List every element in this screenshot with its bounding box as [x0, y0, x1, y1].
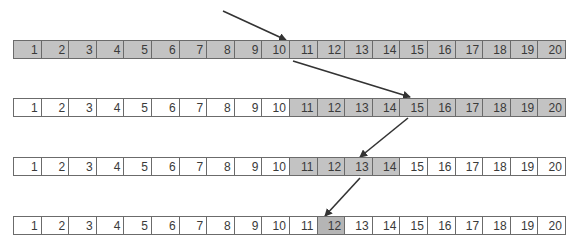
- array-cell: 18: [483, 41, 511, 58]
- array-cell: 2: [42, 158, 70, 175]
- array-cell: 9: [235, 99, 263, 116]
- array-cell: 15: [400, 217, 428, 234]
- array-cell: 3: [69, 99, 97, 116]
- array-cell: 14: [373, 99, 401, 116]
- array-cell: 20: [538, 41, 565, 58]
- array-cell: 20: [538, 99, 565, 116]
- array-cell: 6: [152, 41, 180, 58]
- array-row-4: 1234567891011121314151617181920: [13, 216, 566, 235]
- array-cell: 9: [235, 41, 263, 58]
- array-cell: 16: [428, 41, 456, 58]
- array-cell: 1: [14, 158, 42, 175]
- array-cell: 14: [373, 158, 401, 175]
- array-cell: 6: [152, 99, 180, 116]
- array-cell: 17: [456, 41, 484, 58]
- array-cell: 5: [124, 99, 152, 116]
- array-cell: 12: [318, 41, 346, 58]
- array-cell: 17: [456, 217, 484, 234]
- array-cell: 8: [207, 217, 235, 234]
- array-cell: 7: [180, 41, 208, 58]
- array-row-2: 1234567891011121314151617181920: [13, 98, 566, 117]
- array-cell: 3: [69, 217, 97, 234]
- array-cell: 5: [124, 41, 152, 58]
- array-cell: 13: [345, 158, 373, 175]
- array-cell: 19: [511, 41, 539, 58]
- array-cell: 7: [180, 99, 208, 116]
- array-cell: 17: [456, 99, 484, 116]
- array-cell: 19: [511, 99, 539, 116]
- array-cell: 5: [124, 158, 152, 175]
- array-cell: 12: [318, 99, 346, 116]
- array-row-1: 1234567891011121314151617181920: [13, 40, 566, 59]
- array-cell: 2: [42, 99, 70, 116]
- array-cell: 3: [69, 158, 97, 175]
- array-cell: 1: [14, 41, 42, 58]
- array-cell: 8: [207, 41, 235, 58]
- array-cell: 13: [345, 217, 373, 234]
- arrow-row1-to-row2-icon: [293, 61, 410, 97]
- array-cell: 18: [483, 158, 511, 175]
- array-cell: 14: [373, 217, 401, 234]
- array-cell: 4: [97, 158, 125, 175]
- array-cell: 15: [400, 41, 428, 58]
- array-cell: 5: [124, 217, 152, 234]
- array-cell: 11: [290, 41, 318, 58]
- arrows-layer: [0, 0, 579, 249]
- array-cell: 7: [180, 217, 208, 234]
- array-cell: 7: [180, 158, 208, 175]
- array-cell: 4: [97, 41, 125, 58]
- array-cell: 15: [400, 158, 428, 175]
- array-cell: 16: [428, 99, 456, 116]
- array-cell: 10: [262, 217, 290, 234]
- array-cell: 18: [483, 99, 511, 116]
- arrow-to-row1-pointer-icon: [223, 11, 286, 40]
- array-cell: 20: [538, 217, 565, 234]
- array-cell: 16: [428, 217, 456, 234]
- array-cell: 13: [345, 99, 373, 116]
- array-cell: 17: [456, 158, 484, 175]
- array-cell: 10: [262, 158, 290, 175]
- array-row-3: 1234567891011121314151617181920: [13, 157, 566, 176]
- array-cell: 11: [290, 158, 318, 175]
- array-cell: 10: [262, 99, 290, 116]
- array-cell: 9: [235, 158, 263, 175]
- array-cell: 11: [290, 99, 318, 116]
- array-cell: 12: [318, 158, 346, 175]
- array-cell: 9: [235, 217, 263, 234]
- array-cell: 20: [538, 158, 565, 175]
- array-cell: 18: [483, 217, 511, 234]
- array-cell: 6: [152, 217, 180, 234]
- array-cell: 8: [207, 158, 235, 175]
- array-cell: 1: [14, 99, 42, 116]
- array-cell: 19: [511, 158, 539, 175]
- array-cell: 6: [152, 158, 180, 175]
- array-cell: 10: [262, 41, 290, 58]
- array-cell: 4: [97, 217, 125, 234]
- array-cell: 11: [290, 217, 318, 234]
- array-cell: 1: [14, 217, 42, 234]
- array-cell: 16: [428, 158, 456, 175]
- arrow-row3-to-row4-icon: [325, 178, 360, 216]
- array-cell: 3: [69, 41, 97, 58]
- array-cell: 13: [345, 41, 373, 58]
- array-cell: 8: [207, 99, 235, 116]
- array-cell: 19: [511, 217, 539, 234]
- array-cell: 12: [318, 217, 346, 234]
- array-cell: 15: [400, 99, 428, 116]
- array-cell: 2: [42, 41, 70, 58]
- arrow-row2-to-row3-icon: [360, 118, 408, 157]
- array-cell: 14: [373, 41, 401, 58]
- array-cell: 2: [42, 217, 70, 234]
- array-cell: 4: [97, 99, 125, 116]
